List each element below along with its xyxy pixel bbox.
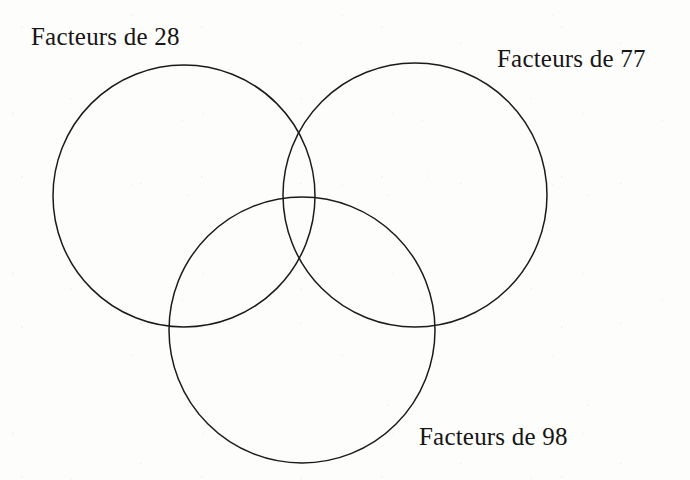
venn-circle-facteurs-de-28[interactable] [53, 65, 315, 327]
venn-diagram-page: Facteurs de 28 Facteurs de 77 Facteurs d… [0, 0, 690, 480]
venn-circle-facteurs-de-77[interactable] [283, 63, 547, 327]
venn-label-facteurs-de-98: Facteurs de 98 [419, 424, 568, 449]
venn-label-facteurs-de-77: Facteurs de 77 [497, 46, 646, 71]
venn-circle-facteurs-de-98[interactable] [169, 197, 435, 463]
venn-label-facteurs-de-28: Facteurs de 28 [31, 24, 180, 49]
venn-diagram-canvas [0, 0, 690, 480]
